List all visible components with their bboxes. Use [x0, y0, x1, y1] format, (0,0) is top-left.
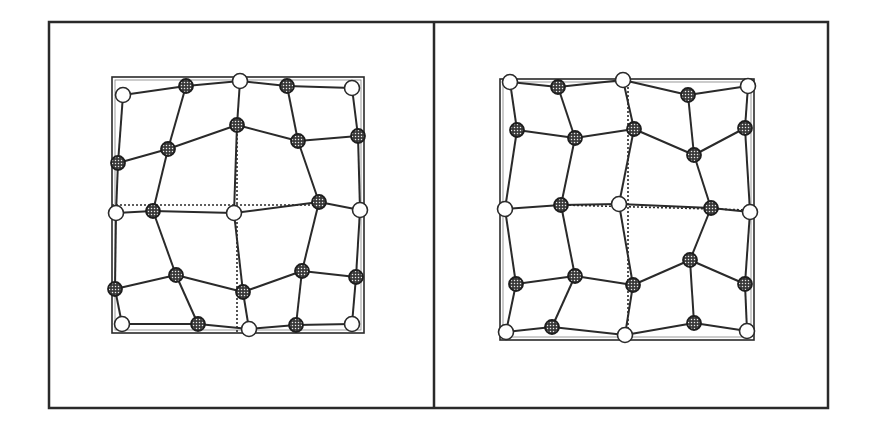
mesh-edge: [575, 129, 634, 138]
mesh-edge: [619, 204, 633, 285]
shaded-node-icon: [568, 269, 582, 283]
mesh-edge: [115, 213, 116, 289]
mesh-edge: [575, 276, 633, 285]
mesh-edge: [298, 141, 319, 202]
mesh-edge: [168, 125, 237, 149]
open-node-icon: [612, 197, 627, 212]
shaded-node-icon: [161, 142, 175, 156]
shaded-node-icon: [230, 118, 244, 132]
open-node-icon: [242, 322, 257, 337]
shaded-node-icon: [509, 277, 523, 291]
open-node-icon: [740, 324, 755, 339]
mesh-deformation-figure: [0, 0, 874, 434]
shaded-node-icon: [312, 195, 326, 209]
shaded-node-icon: [683, 253, 697, 267]
shaded-node-icon: [351, 129, 365, 143]
shaded-node-icon: [169, 268, 183, 282]
shaded-node-icon: [295, 264, 309, 278]
mesh-edge: [234, 202, 319, 213]
shaded-node-icon: [704, 201, 718, 215]
shaded-node-icon: [280, 79, 294, 93]
open-node-icon: [743, 205, 758, 220]
mesh-edge: [505, 130, 517, 209]
mesh-edge: [115, 275, 176, 289]
shaded-node-icon: [510, 123, 524, 137]
shaded-node-icon: [236, 285, 250, 299]
shaded-node-icon: [738, 121, 752, 135]
mesh-edge: [243, 271, 302, 292]
panel-right-mesh: [498, 73, 758, 343]
open-node-icon: [616, 73, 631, 88]
open-node-icon: [233, 74, 248, 89]
shaded-node-icon: [554, 198, 568, 212]
mesh-edge: [356, 210, 360, 277]
open-node-icon: [503, 75, 518, 90]
mesh-edge: [633, 260, 690, 285]
mesh-edge: [176, 275, 198, 324]
mesh-edge: [745, 212, 750, 284]
mesh-edge: [118, 95, 123, 163]
mesh-edge: [505, 205, 561, 209]
mesh-edge: [153, 149, 168, 211]
mesh-edge: [287, 86, 352, 88]
mesh-edge: [634, 129, 694, 155]
mesh-edge: [625, 323, 694, 335]
mesh-edge: [688, 86, 748, 95]
mesh-edge: [296, 271, 302, 325]
mesh-edge: [690, 208, 711, 260]
shaded-node-icon: [626, 278, 640, 292]
shaded-node-icon: [289, 318, 303, 332]
open-node-icon: [353, 203, 368, 218]
mesh-edge: [552, 276, 575, 327]
mesh-edge: [558, 80, 623, 87]
open-node-icon: [618, 328, 633, 343]
mesh-edge: [302, 271, 356, 277]
mesh-edge: [690, 260, 694, 323]
figure-canvas: [0, 0, 874, 434]
shaded-node-icon: [191, 317, 205, 331]
mesh-edge: [690, 260, 745, 284]
panel-left-mesh: [108, 74, 368, 337]
open-node-icon: [109, 206, 124, 221]
open-node-icon: [741, 79, 756, 94]
shaded-node-icon: [687, 148, 701, 162]
mesh-edge: [558, 87, 575, 138]
open-node-icon: [345, 81, 360, 96]
shaded-node-icon: [291, 134, 305, 148]
shaded-node-icon: [146, 204, 160, 218]
open-node-icon: [116, 88, 131, 103]
mesh-edge: [296, 324, 352, 325]
mesh-edge: [298, 136, 358, 141]
shaded-node-icon: [179, 79, 193, 93]
mesh-edge: [287, 86, 298, 141]
open-node-icon: [115, 317, 130, 332]
mesh-edge: [234, 213, 243, 292]
shaded-node-icon: [349, 270, 363, 284]
shaded-node-icon: [108, 282, 122, 296]
mesh-edge: [517, 130, 575, 138]
mesh-edge: [688, 95, 694, 155]
shaded-node-icon: [551, 80, 565, 94]
shaded-node-icon: [738, 277, 752, 291]
open-node-icon: [345, 317, 360, 332]
open-node-icon: [227, 206, 242, 221]
mesh-edge: [516, 276, 575, 284]
mesh-edge: [153, 211, 234, 213]
mesh-edge: [745, 128, 750, 212]
mesh-edge: [123, 86, 186, 95]
mesh-edge: [619, 129, 634, 204]
shaded-node-icon: [111, 156, 125, 170]
mesh-edge: [176, 275, 243, 292]
shaded-node-icon: [627, 122, 641, 136]
mesh-edge: [237, 125, 298, 141]
mesh-edge: [168, 86, 186, 149]
mesh-edge: [561, 204, 619, 205]
mesh-edge: [153, 211, 176, 275]
mesh-edge: [358, 136, 360, 210]
open-node-icon: [499, 325, 514, 340]
shaded-node-icon: [681, 88, 695, 102]
mesh-edge: [561, 138, 575, 205]
mesh-edge: [561, 205, 575, 276]
mesh-edge: [505, 209, 516, 284]
open-node-icon: [498, 202, 513, 217]
